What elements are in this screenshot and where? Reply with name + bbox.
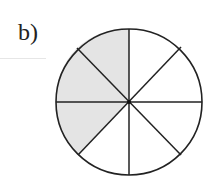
shaded-sectors [56, 29, 129, 155]
fraction-circle [0, 0, 210, 178]
center-dot [127, 100, 131, 104]
shaded-sector-left-lower [56, 102, 129, 155]
